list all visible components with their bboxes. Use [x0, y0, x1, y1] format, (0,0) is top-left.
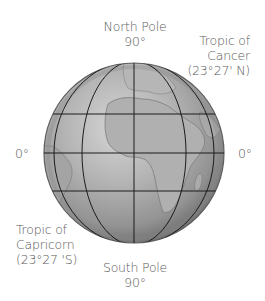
- tropic-of-cancer-line2: Cancer: [180, 48, 250, 63]
- tropic-of-capricorn-line2: Capricorn: [16, 237, 96, 252]
- tropic-of-capricorn-line1: Tropic of: [16, 222, 96, 237]
- south-pole-degrees: 90°: [98, 275, 172, 290]
- equator-right-label: 0°: [238, 146, 252, 161]
- tropic-of-capricorn-label: Tropic of Capricorn (23°27 'S): [16, 222, 96, 267]
- north-pole-name: North Pole: [98, 19, 172, 34]
- south-pole-name: South Pole: [98, 260, 172, 275]
- tropic-of-cancer-line3: (23°27' N): [180, 63, 250, 78]
- grid-lines: [40, 60, 228, 246]
- tropic-of-cancer-line1: Tropic of: [180, 33, 250, 48]
- tropic-of-cancer-label: Tropic of Cancer (23°27' N): [180, 33, 250, 78]
- north-pole-label: North Pole 90°: [98, 19, 172, 49]
- equator-left-label: 0°: [15, 146, 29, 161]
- south-pole-label: South Pole 90°: [98, 260, 172, 290]
- tropic-of-capricorn-line3: (23°27 'S): [16, 252, 96, 267]
- north-pole-degrees: 90°: [98, 34, 172, 49]
